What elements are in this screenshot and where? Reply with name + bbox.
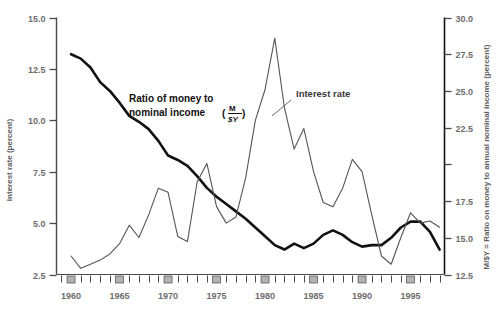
x-tick-label-1970: 1970 [158,291,178,301]
left-tick-label-12.5: 12.5 [28,65,46,75]
fraction-denominator: $Y [227,115,238,124]
x-tick-label-1960: 1960 [61,291,81,301]
left-axis-title: Interest rate (percent) [5,119,14,202]
x-tick-label-1995: 1995 [401,291,421,301]
money-ratio-label-line1: Ratio of money to [129,93,213,104]
right-tick-label-27.5: 27.5 [456,50,474,60]
recession-bar-1965 [116,276,124,283]
x-tick-label-1975: 1975 [207,291,227,301]
fraction-numerator: M [229,104,236,113]
x-tick-label-1990: 1990 [352,291,372,301]
left-tick-label-7.5: 7.5 [33,168,46,178]
right-tick-label-25.0: 25.0 [456,87,474,97]
right-tick-label-30.0: 30.0 [456,14,474,24]
fraction-right-paren: ) [242,108,245,119]
x-tick-label-1980: 1980 [255,291,275,301]
left-tick-label-10.0: 10.0 [28,116,46,126]
x-tick-label-1985: 1985 [304,291,324,301]
chart-background [0,0,501,311]
right-tick-label-15.0: 15.0 [456,234,474,244]
recession-bar-1980 [261,276,269,283]
money-ratio-label-line2: nominal income [129,107,206,118]
interest-rate-label: Interest rate [296,88,350,99]
right-axis-title: M/$Y = Ratio on money to annual nominal … [482,44,491,269]
left-tick-label-15.0: 15.0 [28,14,46,24]
right-tick-label-12.5: 12.5 [456,271,474,281]
right-tick-label-17.5: 17.5 [456,197,474,207]
left-tick-label-5.0: 5.0 [33,219,46,229]
recession-bar-1995 [407,276,415,283]
left-tick-label-2.5: 2.5 [33,271,46,281]
x-tick-label-1965: 1965 [110,291,130,301]
chart-container: 2.55.07.510.012.515.0 12.515.017.522.525… [0,0,501,311]
economic-line-chart: 2.55.07.510.012.515.0 12.515.017.522.525… [0,0,501,311]
recession-bar-1970 [164,276,172,283]
right-tick-label-22.5: 22.5 [456,124,474,134]
recession-bar-1975 [213,276,221,283]
recession-bar-1985 [310,276,318,283]
recession-bar-1960 [67,276,75,283]
recession-bar-1990 [358,276,366,283]
